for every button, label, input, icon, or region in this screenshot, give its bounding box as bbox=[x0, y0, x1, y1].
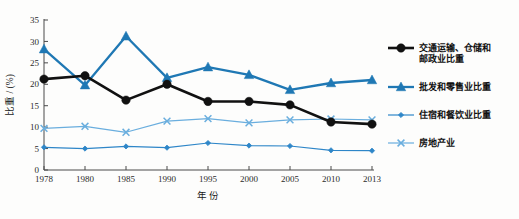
legend-item-1[interactable]: 批发和零售业比重 bbox=[388, 81, 491, 92]
y-tick-label: 10 bbox=[30, 122, 40, 132]
marker-circle-0-0 bbox=[40, 75, 48, 83]
marker-triangle-1-4 bbox=[203, 62, 213, 71]
marker-diamond-2-6 bbox=[287, 143, 292, 148]
legend-label-0: 交通运输、仓储和 bbox=[419, 42, 491, 53]
legend-label-3: 房地产业 bbox=[419, 137, 455, 148]
y-tick-label: 15 bbox=[30, 101, 40, 111]
marker-circle-legend-0 bbox=[397, 44, 405, 52]
x-tick-label: 1978 bbox=[35, 174, 54, 184]
marker-diamond-2-4 bbox=[205, 140, 210, 145]
marker-diamond-2-5 bbox=[246, 143, 251, 148]
marker-circle-0-6 bbox=[286, 101, 294, 109]
legend-item-0[interactable]: 交通运输、仓储和邮政业比重 bbox=[388, 42, 491, 64]
marker-circle-0-3 bbox=[163, 80, 171, 88]
marker-diamond-2-1 bbox=[82, 146, 87, 151]
series-path-3 bbox=[44, 119, 372, 133]
x-tick-label: 1995 bbox=[199, 174, 218, 184]
x-tick-label: 1985 bbox=[117, 174, 136, 184]
legend-item-2[interactable]: 住宿和餐饮业比重 bbox=[388, 109, 491, 120]
line-chart: 0510152025303519781980198519901995200020… bbox=[0, 0, 519, 219]
legend-label-second-line-0: 邮政业比重 bbox=[419, 53, 464, 64]
marker-diamond-legend-2 bbox=[398, 112, 403, 117]
legend-label-1: 批发和零售业比重 bbox=[419, 81, 491, 92]
marker-diamond-2-2 bbox=[123, 144, 128, 149]
y-tick-label: 20 bbox=[30, 79, 40, 89]
marker-diamond-2-0 bbox=[41, 145, 46, 150]
marker-circle-0-4 bbox=[204, 97, 212, 105]
marker-circle-0-7 bbox=[327, 118, 335, 126]
marker-diamond-2-7 bbox=[328, 148, 333, 153]
marker-triangle-1-2 bbox=[121, 31, 131, 40]
y-tick-label: 5 bbox=[35, 144, 40, 154]
series-2 bbox=[41, 140, 374, 153]
marker-diamond-2-8 bbox=[369, 148, 374, 153]
x-tick-label: 2000 bbox=[240, 174, 259, 184]
x-tick-label: 1990 bbox=[158, 174, 177, 184]
y-tick-label: 25 bbox=[30, 58, 40, 68]
series-0 bbox=[40, 72, 376, 129]
x-tick-label: 1980 bbox=[76, 174, 95, 184]
marker-diamond-2-3 bbox=[164, 145, 169, 150]
y-tick-label: 30 bbox=[30, 37, 40, 47]
x-tick-label: 2013 bbox=[363, 174, 382, 184]
marker-circle-0-8 bbox=[368, 120, 376, 128]
legend-label-2: 住宿和餐饮业比重 bbox=[419, 109, 491, 120]
x-tick-label: 2005 bbox=[281, 174, 300, 184]
marker-circle-0-1 bbox=[81, 72, 89, 80]
x-axis-title: 年 份 bbox=[197, 190, 219, 201]
series-1 bbox=[39, 31, 377, 93]
marker-triangle-1-0 bbox=[39, 44, 49, 53]
marker-circle-0-2 bbox=[122, 96, 130, 104]
y-axis-title: 比重 / (%) bbox=[4, 74, 16, 116]
y-tick-label: 35 bbox=[30, 15, 40, 25]
chart-svg: 0510152025303519781980198519901995200020… bbox=[0, 0, 519, 219]
legend-item-3[interactable]: 房地产业 bbox=[388, 137, 455, 148]
marker-circle-0-5 bbox=[245, 97, 253, 105]
x-tick-label: 2010 bbox=[322, 174, 341, 184]
chart-root: 0510152025303519781980198519901995200020… bbox=[0, 0, 519, 219]
